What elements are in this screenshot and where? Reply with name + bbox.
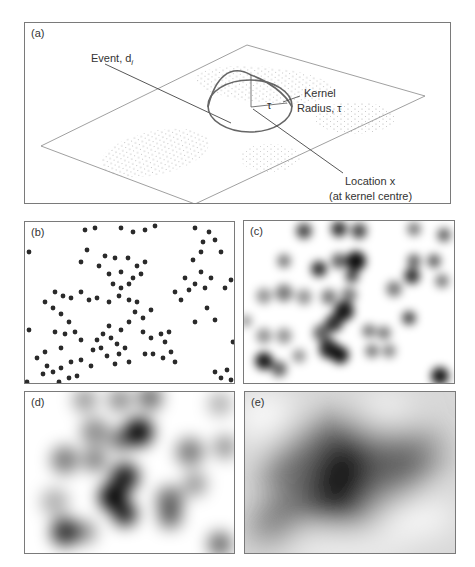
location-label: Location x <box>345 175 396 187</box>
panel-a-label: (a) <box>31 27 44 39</box>
kernel-diagram: Event, di Kernel Radius, τ τ Location x … <box>25 23 451 204</box>
panel-d-label: (d) <box>31 396 44 408</box>
density-map-medium-bandwidth <box>25 392 235 554</box>
panel-c-density-small: (c) <box>243 220 455 384</box>
panel-e-label: (e) <box>251 396 264 408</box>
panel-e-density-large: (e) <box>244 391 456 554</box>
radius-label: Radius, τ <box>297 102 342 114</box>
panel-a-kernel-diagram: (a) Event, di Kernel Radius, τ <box>24 22 451 204</box>
panel-d-density-medium: (d) <box>24 391 235 554</box>
kernel-label: Kernel <box>304 87 336 99</box>
location-note-label: (at kernel centre) <box>329 190 412 202</box>
panel-c-label: (c) <box>250 225 263 237</box>
event-label: Event, di <box>91 52 133 67</box>
panel-b-point-events: (b) <box>24 221 235 384</box>
panel-b-label: (b) <box>31 226 44 238</box>
tau-label: τ <box>267 99 272 111</box>
point-events-map <box>25 222 235 384</box>
density-map-large-bandwidth <box>245 392 456 554</box>
density-map-small-bandwidth <box>244 221 455 384</box>
